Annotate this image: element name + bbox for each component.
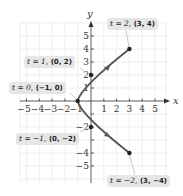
svg-text:−5: −5 (17, 104, 31, 114)
point-t2 (127, 47, 131, 51)
point-t1 (89, 73, 93, 77)
svg-text:4: 4 (139, 104, 145, 114)
x-tick-labels: −5 −4 −3 −2 −1 1 2 3 4 5 (17, 104, 158, 114)
grid (20, 22, 166, 183)
callout-t0-point: (−1, 0) (36, 84, 63, 92)
callout-t1-point: (0, 2) (51, 58, 72, 66)
callout-t2-point: (3, 4) (134, 20, 155, 28)
x-axis-label: x (173, 95, 179, 106)
callout-tm1: t = −1, (0, −2) (16, 133, 79, 145)
svg-text:−5: −5 (76, 161, 90, 171)
callout-tm1-point: (0, −2) (49, 135, 76, 143)
svg-text:−3: −3 (44, 104, 58, 114)
callout-t2: t = 2, (3, 4) (107, 18, 158, 30)
svg-text:3: 3 (127, 104, 133, 114)
callout-t1: t = 1, (0, 2) (24, 56, 75, 68)
callout-t2-eq: t = 2, (110, 19, 131, 28)
point-tm2 (127, 151, 131, 155)
svg-text:−4: −4 (76, 148, 90, 158)
svg-text:−2: −2 (57, 104, 70, 114)
svg-text:1: 1 (101, 104, 107, 114)
svg-text:3: 3 (83, 57, 89, 67)
x-axis-arrow-icon (164, 99, 170, 104)
callout-tm2-eq: t = −2, (110, 176, 138, 185)
y-axis-label: y (86, 8, 93, 19)
callout-t0-eq: t = 0, (12, 83, 33, 92)
svg-text:5: 5 (83, 31, 89, 41)
svg-text:4: 4 (83, 44, 89, 54)
callout-tm2-point: (3, −4) (140, 177, 167, 185)
y-axis-arrow-icon (89, 21, 94, 27)
callout-tm1-eq: t = −1, (19, 134, 47, 143)
callout-t0: t = 0, (−1, 0) (9, 82, 66, 94)
point-t0 (76, 99, 80, 103)
svg-text:5: 5 (152, 104, 158, 114)
axes (20, 21, 170, 183)
svg-text:2: 2 (114, 104, 120, 114)
callout-t1-eq: t = 1, (27, 57, 48, 66)
svg-text:−4: −4 (31, 104, 45, 114)
callout-tm2: t = −2, (3, −4) (107, 175, 170, 187)
point-tm1 (89, 125, 93, 129)
